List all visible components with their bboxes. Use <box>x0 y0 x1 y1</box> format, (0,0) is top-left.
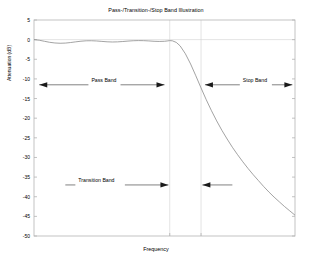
annotation-label-stop-band: Stop Band <box>243 77 267 83</box>
arrow-head <box>202 182 210 187</box>
arrow-head <box>284 82 292 87</box>
curve-line <box>34 40 295 216</box>
y-tick-label: -10 <box>8 76 30 82</box>
arrow-head <box>205 82 213 87</box>
y-tick-label: -50 <box>8 233 30 239</box>
y-tick-label: 5 <box>8 17 30 23</box>
annotation-arrows <box>39 81 292 189</box>
axes-frame <box>34 20 295 236</box>
y-tick-label: -15 <box>8 96 30 102</box>
y-tick-label: -20 <box>8 115 30 121</box>
x-tick-marks <box>170 233 201 236</box>
arrow-head <box>157 82 165 87</box>
arrow-head <box>160 182 168 187</box>
y-tick-label: -45 <box>8 213 30 219</box>
figure-canvas: Pass-/Transition-/Stop Band Illustration… <box>0 0 312 261</box>
y-tick-label: -30 <box>8 154 30 160</box>
annotation-label-transition-band-left: Transition Band <box>78 177 114 183</box>
y-tick-label: -25 <box>8 135 30 141</box>
annotation-label-pass-band: Pass Band <box>91 77 116 83</box>
y-tick-label: -5 <box>8 56 30 62</box>
y-tick-label: 0 <box>8 37 30 43</box>
vertical-gridlines <box>34 20 295 236</box>
y-tick-label: -40 <box>8 194 30 200</box>
arrow-head <box>39 82 47 87</box>
response-curve <box>34 40 295 216</box>
plot-area <box>0 0 312 261</box>
y-tick-label: -35 <box>8 174 30 180</box>
y-tick-marks <box>34 20 295 236</box>
